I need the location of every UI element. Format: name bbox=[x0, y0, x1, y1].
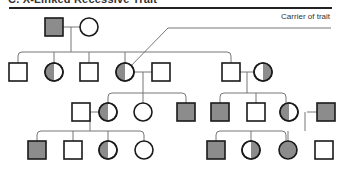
gen4-female-unaffected bbox=[135, 141, 153, 159]
gen3-male-affected bbox=[177, 103, 195, 121]
gen3-male-spouse bbox=[72, 103, 90, 121]
gen4-female-carrier bbox=[99, 141, 117, 159]
gen3-male-affected-spouse bbox=[317, 103, 335, 121]
gen3-female-unaffected bbox=[134, 103, 152, 121]
gen2-male-unaffected bbox=[80, 63, 98, 81]
gen2-female-carrier bbox=[116, 63, 134, 81]
gen4-male-affected bbox=[28, 141, 46, 159]
gen1-male-affected bbox=[45, 18, 63, 36]
gen1-female-unaffected bbox=[80, 18, 98, 36]
gen2-male-spouse bbox=[152, 63, 170, 81]
connector-lines bbox=[18, 27, 331, 141]
gen2-male-unaffected bbox=[9, 63, 27, 81]
gen3-male-affected bbox=[211, 103, 229, 121]
gen2-female-carrier bbox=[45, 63, 63, 81]
gen4-male-unaffected bbox=[64, 141, 82, 159]
gen3-female-carrier bbox=[280, 103, 298, 121]
gen4-male-affected bbox=[207, 141, 225, 159]
gen4-female-carrier bbox=[242, 141, 260, 159]
pedigree-chart bbox=[0, 0, 341, 169]
gen4-male-unaffected bbox=[315, 141, 333, 159]
gen3-female-carrier bbox=[99, 103, 117, 121]
gen3-male-unaffected bbox=[247, 103, 265, 121]
gen4-female-affected bbox=[279, 141, 297, 159]
gen2-female-carrier-spouse bbox=[254, 63, 272, 81]
gen2-male-unaffected bbox=[222, 63, 240, 81]
